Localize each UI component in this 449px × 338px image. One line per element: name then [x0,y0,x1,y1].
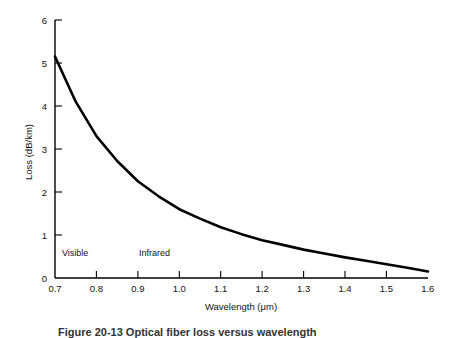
y-tick-label-6: 6 [33,16,47,26]
y-tick-label-3: 3 [33,145,47,155]
y-axis-title: Loss (dB/km) [24,124,34,180]
loss-curve [55,57,428,272]
x-tick-label-0-8: 0.8 [81,284,111,294]
x-tick-label-1-4: 1.4 [330,284,360,294]
x-axis-ticks [96,271,386,278]
y-axis-ticks [55,20,62,235]
x-tick-label-1-1: 1.1 [206,284,236,294]
x-axis-title: Wavelength (μm) [141,302,341,312]
x-tick-label-1-6: 1.6 [413,284,443,294]
y-tick-label-1: 1 [33,231,47,241]
x-tick-label-1-3: 1.3 [289,284,319,294]
y-tick-label-2: 2 [33,188,47,198]
x-tick-label-1-0: 1.0 [164,284,194,294]
x-tick-label-1-2: 1.2 [247,284,277,294]
y-tick-label-0: 0 [33,274,47,284]
annotation-infrared: Infrared [139,249,170,258]
y-tick-label-5: 5 [33,59,47,69]
x-tick-label-0-7: 0.7 [40,284,70,294]
x-tick-label-1-5: 1.5 [371,284,401,294]
annotation-visible: Visible [62,249,88,258]
x-tick-label-0-9: 0.9 [123,284,153,294]
figure-caption: Figure 20-13 Optical fiber loss versus w… [58,326,317,338]
y-tick-label-4: 4 [33,102,47,112]
